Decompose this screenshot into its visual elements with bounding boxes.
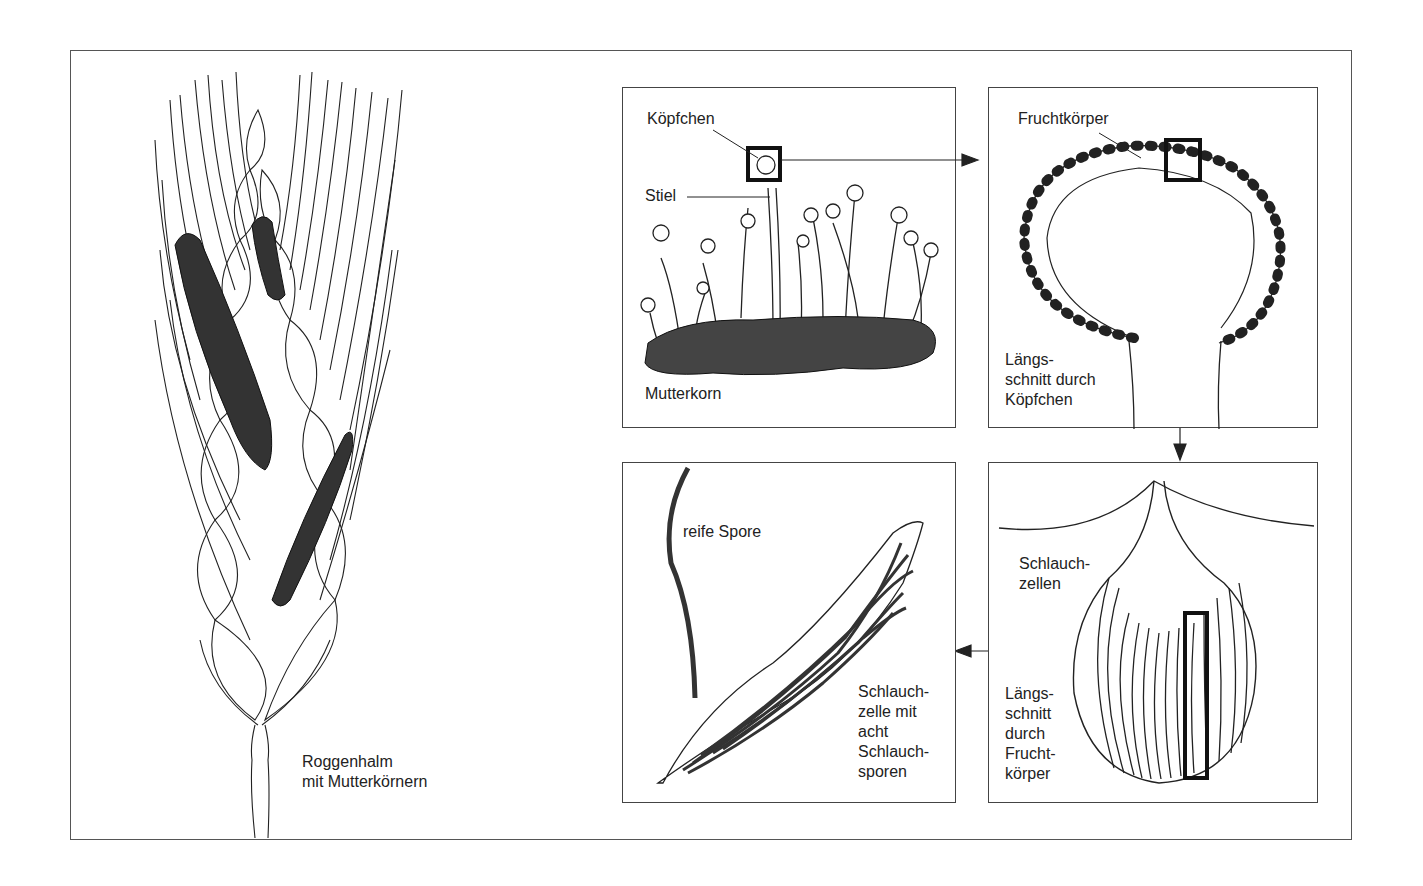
panel-koepfchen-section: Fruchtkörper Längs- schnitt durch Köpfch… bbox=[988, 87, 1318, 428]
label-koepfchen-section: Längs- schnitt durch Köpfchen bbox=[1005, 350, 1096, 410]
label-schlauchzellen: Schlauch- zellen bbox=[1019, 554, 1090, 594]
label-fruchtkoerper: Fruchtkörper bbox=[1018, 109, 1109, 129]
label-reife-spore: reife Spore bbox=[683, 522, 761, 542]
panel-schlauchzelle: reife Spore Schlauch- zelle mit acht Sch… bbox=[622, 462, 956, 803]
label-fruchtkoerper-section: Längs- schnitt durch Frucht- körper bbox=[1005, 684, 1056, 784]
label-schlauchzelle: Schlauch- zelle mit acht Schlauch- spore… bbox=[858, 682, 929, 782]
panel-fruchtkoerper-section: Schlauch- zellen Längs- schnitt durch Fr… bbox=[988, 462, 1318, 803]
